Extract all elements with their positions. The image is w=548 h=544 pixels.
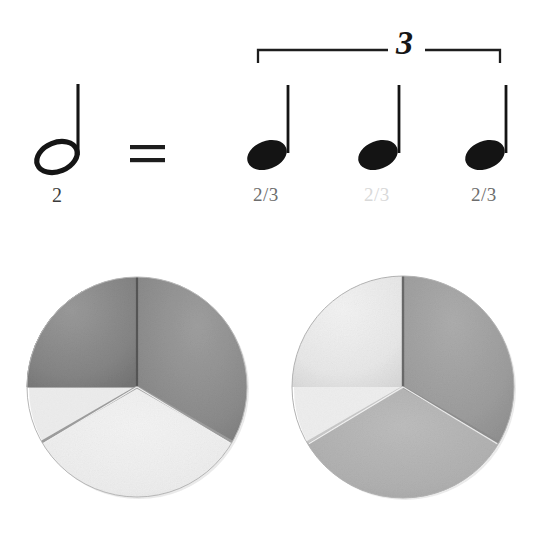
triplet-bracket-icon [258,50,500,63]
half-note-head-hole [44,147,71,167]
right-pie-chart [292,276,516,500]
half-note-value-label: 2 [52,184,63,207]
quarter-note-icon-1 [243,85,291,175]
quarter-note-head-3 [461,135,509,176]
quarter-note-value-label-2: 2/3 [364,184,390,206]
left-pie-chart [27,277,249,499]
triplet-number-label: 3 [396,24,414,62]
quarter-note-head-1 [243,135,291,176]
equals-bar-top [130,145,165,149]
quarter-note-value-label-3: 2/3 [471,184,497,206]
half-note-icon [32,84,82,178]
triplet-bracket-left [258,50,388,63]
quarter-note-icon-2 [354,85,402,175]
equals-sign-icon [130,145,165,162]
quarter-note-head-2 [354,135,402,176]
equals-bar-bottom [130,158,165,162]
right-pie-slice-1-fill [292,276,403,387]
quarter-note-icon-3 [461,85,509,175]
figure-canvas: 3 2 2/3 2/3 2/3 [0,0,548,544]
left-pie-slice-1-fill [27,277,137,387]
quarter-note-value-label-1: 2/3 [253,184,279,206]
triplet-bracket-right [425,50,500,63]
